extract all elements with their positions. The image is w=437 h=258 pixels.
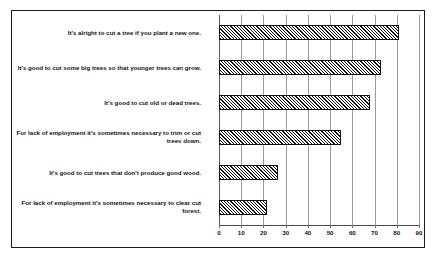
category-label: It's good to cut trees that don't produc… (13, 169, 201, 177)
gridline (375, 15, 376, 225)
bar (219, 95, 370, 110)
x-axis-tick-label: 30 (274, 229, 298, 236)
x-axis-tick-label: 20 (251, 229, 275, 236)
x-axis-tick (263, 225, 264, 228)
x-axis-tick-label: 60 (340, 229, 364, 236)
x-axis-tick (397, 225, 398, 228)
x-axis-tick-label: 80 (385, 229, 409, 236)
bar (219, 165, 278, 180)
x-axis-tick (375, 225, 376, 228)
bar-row (219, 165, 419, 180)
bar-row (219, 95, 419, 110)
category-label: For lack of employment it's sometimes ne… (13, 199, 201, 216)
bar-row (219, 130, 419, 145)
gridline (419, 15, 420, 225)
x-axis-tick-label: 90 (407, 229, 431, 236)
gridline (397, 15, 398, 225)
gridlines (219, 15, 419, 225)
category-label: It's good to cut some big trees so that … (13, 64, 201, 72)
x-axis-tick (286, 225, 287, 228)
gridline (241, 15, 242, 225)
x-axis-tick-label: 0 (207, 229, 231, 236)
gridline (219, 15, 220, 225)
gridline (308, 15, 309, 225)
x-axis-tick-label: 70 (363, 229, 387, 236)
x-axis-tick (419, 225, 420, 228)
x-axis-tick-label: 10 (229, 229, 253, 236)
category-label: It's alright to cut a tree if you plant … (13, 29, 201, 37)
category-label: It's good to cut old or dead trees. (13, 99, 201, 107)
gridline (286, 15, 287, 225)
plot-area (219, 15, 419, 225)
bar-row (219, 200, 419, 215)
x-axis-tick-label: 40 (296, 229, 320, 236)
x-axis-tick-label: 50 (318, 229, 342, 236)
gridline (352, 15, 353, 225)
bar (219, 200, 267, 215)
bar (219, 60, 381, 75)
chart-frame: It's alright to cut a tree if you plant … (11, 10, 425, 248)
category-label-column: It's alright to cut a tree if you plant … (12, 11, 209, 225)
x-axis-tick-labels: 0102030405060708090 (219, 229, 419, 241)
gridline (330, 15, 331, 225)
category-label: For lack of employment it's sometimes ne… (13, 129, 201, 146)
gridline (263, 15, 264, 225)
bar (219, 130, 341, 145)
x-axis-tick (330, 225, 331, 228)
bar-row (219, 60, 419, 75)
bar (219, 25, 399, 40)
x-axis-tick (308, 225, 309, 228)
x-axis-tick (241, 225, 242, 228)
x-axis-tick (219, 225, 220, 228)
x-axis-tick (352, 225, 353, 228)
bar-row (219, 25, 419, 40)
